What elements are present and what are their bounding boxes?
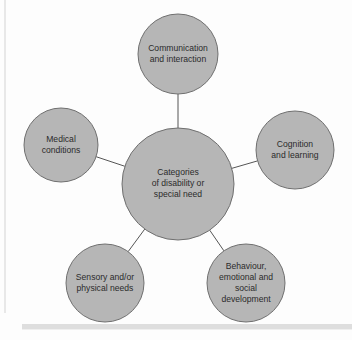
node-label-communication-and-interaction-line-2: and interaction <box>150 54 207 64</box>
categories-of-disability-diagram: Communicationand interactionCognitionand… <box>0 0 352 340</box>
connector-center-to-behaviour-emotional-and-social-development <box>210 230 224 251</box>
node-label-categories-of-disability-or-special-need-line-1: Categories <box>157 167 199 177</box>
connector-center-to-sensory-and-or-physical-needs <box>128 229 145 252</box>
node-categories-of-disability-or-special-need[interactable]: Categoriesof disability orspecial need <box>122 128 234 240</box>
node-cognition-and-learning[interactable]: Cognitionand learning <box>256 111 334 189</box>
page-bottom-divider-shadow <box>22 329 352 330</box>
node-label-categories-of-disability-or-special-need-line-3: special need <box>154 189 202 199</box>
connector-center-to-cognition-and-learning <box>232 161 258 168</box>
node-behaviour-emotional-and-social-development[interactable]: Behaviour,emotional andsocialdevelopment <box>207 244 285 322</box>
node-label-behaviour-emotional-and-social-development-line-1: Behaviour, <box>226 261 267 271</box>
node-label-medical-conditions-line-1: Medical <box>46 134 76 144</box>
diagram-page: Communicationand interactionCognitionand… <box>0 0 352 340</box>
node-medical-conditions[interactable]: Medicalconditions <box>24 108 98 182</box>
node-label-sensory-and-or-physical-needs-line-2: physical needs <box>77 283 134 293</box>
connector-center-to-medical-conditions <box>96 157 125 167</box>
node-communication-and-interaction[interactable]: Communicationand interaction <box>138 14 218 94</box>
node-label-behaviour-emotional-and-social-development-line-4: development <box>221 294 271 304</box>
node-label-cognition-and-learning-line-1: Cognition <box>277 139 314 149</box>
nodes-group: Communicationand interactionCognitionand… <box>24 14 334 322</box>
node-label-behaviour-emotional-and-social-development-line-2: emotional and <box>219 272 273 282</box>
node-label-communication-and-interaction-line-1: Communication <box>148 43 208 53</box>
node-label-categories-of-disability-or-special-need-line-2: of disability or <box>152 178 205 188</box>
node-label-sensory-and-or-physical-needs-line-1: Sensory and/or <box>76 272 134 282</box>
node-label-medical-conditions-line-2: conditions <box>42 145 81 155</box>
node-label-behaviour-emotional-and-social-development-line-3: social <box>235 283 257 293</box>
node-sensory-and-or-physical-needs[interactable]: Sensory and/orphysical needs <box>66 244 144 322</box>
node-label-cognition-and-learning-line-2: and learning <box>271 150 319 160</box>
